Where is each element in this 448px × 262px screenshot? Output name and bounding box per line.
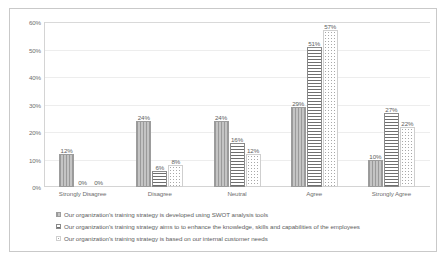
legend-item[interactable]: Our organization's training strategy aim… [10, 220, 438, 232]
plot-area: 0%10%20%30%40%50%60% 12%0%0%24%6%8%24%16… [10, 9, 438, 205]
bar-value-label: 8% [171, 158, 180, 165]
bar[interactable]: 8% [168, 165, 183, 187]
bar-group: 12%0%0% [44, 22, 121, 187]
bar-value-label: 51% [308, 40, 320, 47]
bar[interactable]: 12% [59, 154, 74, 187]
bar-value-label: 0% [94, 179, 103, 186]
bar[interactable]: 6% [152, 171, 167, 188]
bar[interactable]: 16% [230, 143, 245, 187]
x-axis-tick-label: Strongly Agree [353, 190, 430, 197]
bar[interactable]: 22% [400, 127, 415, 188]
chart-frame: 0%10%20%30%40%50%60% 12%0%0%24%6%8%24%16… [9, 8, 437, 252]
x-axis-tick-label: Neutral [198, 190, 275, 197]
bar-slot: 22% [400, 22, 415, 187]
y-axis-tick-label: 30% [29, 101, 41, 108]
y-axis: 0%10%20%30%40%50%60% [10, 9, 44, 205]
legend-label: Our organization's training strategy aim… [64, 223, 360, 230]
y-axis-tick-label: 40% [29, 74, 41, 81]
y-axis-tick-label: 10% [29, 156, 41, 163]
chart-legend: Our organization's training strategy is … [10, 205, 438, 244]
bar-slot: 16% [230, 22, 245, 187]
legend-item[interactable]: Our organization's training strategy is … [10, 232, 438, 244]
x-axis-tick-label: Strongly Disagree [44, 190, 121, 197]
bar[interactable]: 27% [384, 113, 399, 187]
bar-value-label: 22% [401, 120, 413, 127]
bar-group: 10%27%22% [353, 22, 430, 187]
x-axis-tick-label: Agree [276, 190, 353, 197]
bar-slot: 10% [368, 22, 383, 187]
x-axis: Strongly DisagreeDisagreeNeutralAgreeStr… [44, 190, 430, 197]
bar-groups: 12%0%0%24%6%8%24%16%12%29%51%57%10%27%22… [44, 22, 430, 187]
bar-slot: 12% [59, 22, 74, 187]
legend-swatch-icon [56, 236, 61, 241]
x-axis-tick-label: Disagree [121, 190, 198, 197]
bar[interactable]: 12% [246, 154, 261, 187]
legend-label: Our organization's training strategy is … [64, 235, 268, 242]
bar-slot: 6% [152, 22, 167, 187]
bar-slot: 24% [214, 22, 229, 187]
bar[interactable]: 24% [136, 121, 151, 187]
bar-value-label: 12% [61, 147, 73, 154]
bar-group: 29%51%57% [276, 22, 353, 187]
y-axis-tick-label: 20% [29, 129, 41, 136]
bar-group: 24%16%12% [198, 22, 275, 187]
bar-value-label: 6% [155, 164, 164, 171]
y-axis-tick-label: 0% [32, 184, 41, 191]
bar-value-label: 57% [324, 23, 336, 30]
bar-value-label: 12% [247, 147, 259, 154]
bar-value-label: 29% [292, 100, 304, 107]
bar-value-label: 0% [78, 179, 87, 186]
bar[interactable]: 24% [214, 121, 229, 187]
bar-slot: 12% [246, 22, 261, 187]
bar-slot: 8% [168, 22, 183, 187]
bar-slot: 51% [307, 22, 322, 187]
bar-group: 24%6%8% [121, 22, 198, 187]
bar-slot: 29% [291, 22, 306, 187]
bar[interactable]: 10% [368, 160, 383, 188]
bar-value-label: 16% [231, 136, 243, 143]
bar-value-label: 27% [385, 106, 397, 113]
bar[interactable]: 51% [307, 47, 322, 187]
bar-value-label: 10% [369, 153, 381, 160]
bar-value-label: 24% [215, 114, 227, 121]
legend-swatch-icon [56, 224, 61, 229]
bar-slot: 0% [75, 22, 90, 187]
y-axis-tick-label: 60% [29, 19, 41, 26]
bar[interactable]: 29% [291, 107, 306, 187]
bar-slot: 27% [384, 22, 399, 187]
bar-slot: 57% [323, 22, 338, 187]
legend-item[interactable]: Our organization's training strategy is … [10, 208, 438, 220]
bar-value-label: 24% [138, 114, 150, 121]
legend-swatch-icon [56, 212, 61, 217]
bar-slot: 24% [136, 22, 151, 187]
legend-label: Our organization's training strategy is … [64, 211, 268, 218]
bar-slot: 0% [91, 22, 106, 187]
bar[interactable]: 57% [323, 30, 338, 187]
y-axis-tick-label: 50% [29, 46, 41, 53]
